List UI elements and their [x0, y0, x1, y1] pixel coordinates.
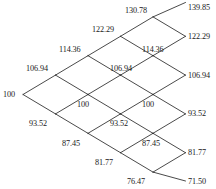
- node-value-label: 122.29: [188, 32, 210, 41]
- node-value-label: 93.52: [29, 119, 47, 128]
- lattice-edge: [56, 56, 89, 75]
- lattice-edge: [88, 36, 121, 55]
- binomial-lattice-diagram: 100106.9493.52114.3610087.45122.29106.94…: [0, 0, 216, 189]
- node-value-label: 122.29: [92, 25, 114, 34]
- lattice-edge: [23, 95, 56, 114]
- node-value-label: 114.36: [59, 45, 81, 54]
- lattice-edge: [153, 75, 186, 94]
- lattice-edge: [56, 114, 89, 133]
- lattice-edge: [88, 95, 121, 114]
- node-value-label: 87.45: [142, 139, 160, 148]
- node-value-label: 87.45: [62, 139, 80, 148]
- node-value-label: 81.77: [95, 158, 113, 167]
- lattice-edge: [23, 75, 56, 94]
- lattice-edge: [56, 75, 89, 94]
- node-value-label: 106.94: [26, 64, 48, 73]
- lattice-edge: [153, 95, 186, 114]
- lattice-edge: [88, 75, 121, 94]
- node-value-label: 100: [77, 100, 89, 109]
- node-value-label: 81.77: [188, 148, 206, 157]
- node-value-label: 106.94: [188, 71, 210, 80]
- lattice-edge: [153, 56, 186, 75]
- node-value-label: 76.47: [127, 177, 145, 186]
- lattice-edge: [121, 153, 154, 172]
- node-value-label: 130.78: [125, 6, 147, 15]
- node-value-label: 114.36: [142, 45, 164, 54]
- lattice-edge: [153, 114, 186, 133]
- node-value-label: 100: [3, 90, 15, 99]
- node-value-label: 139.85: [188, 3, 210, 12]
- lattice-edge: [153, 172, 186, 181]
- lattice-edge: [153, 17, 186, 36]
- lattice-edge: [121, 17, 154, 36]
- node-value-label: 93.52: [188, 109, 206, 118]
- lattice-edge: [153, 153, 186, 172]
- node-value-label: 93.52: [110, 119, 128, 128]
- lattice-edge: [88, 133, 121, 152]
- node-value-label: 100: [142, 100, 154, 109]
- node-value-label: 106.94: [110, 64, 132, 73]
- node-value-label: 71.50: [188, 177, 206, 186]
- lattice-edge: [153, 3, 186, 17]
- lattice-edge: [121, 75, 154, 94]
